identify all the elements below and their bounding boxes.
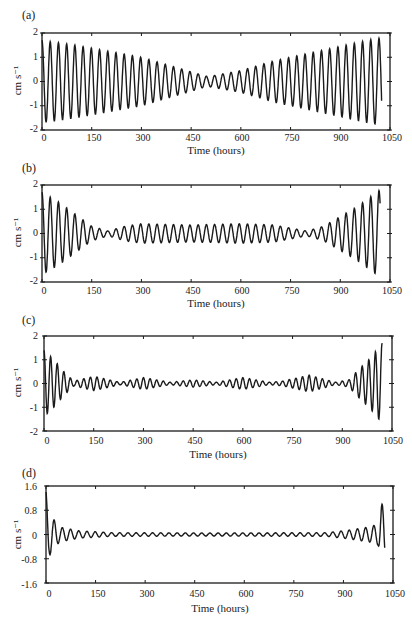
xtick-d-6: 900 [328, 588, 362, 599]
xtick-a-2: 300 [126, 132, 160, 143]
xtick-b-0: 0 [27, 285, 61, 296]
xtick-d-0: 0 [32, 588, 66, 599]
xtick-c-2: 300 [128, 435, 162, 446]
signal-line [44, 343, 382, 419]
ytick-b-0: 2 [8, 178, 38, 189]
xtick-d-3: 450 [180, 588, 214, 599]
ytick-d-0: 1.6 [7, 481, 37, 492]
xtick-c-0: 0 [30, 435, 64, 446]
signal-line [42, 191, 380, 274]
figure: (a) cm s⁻¹ 2 1 0 -1 -2 0 150 300 450 600… [0, 0, 412, 619]
xtick-b-3: 450 [176, 285, 210, 296]
xlabel-b: Time (hours) [156, 297, 276, 309]
plot-panel-2 [40, 185, 392, 282]
xtick-c-1: 150 [79, 435, 113, 446]
plot-panel-3 [42, 336, 394, 431]
xtick-b-5: 750 [275, 285, 309, 296]
ytick-c-1: 1 [8, 354, 38, 365]
ytick-b-2: 0 [8, 227, 38, 238]
xtick-b-4: 600 [225, 285, 259, 296]
panel-label-c: (c) [22, 313, 35, 328]
ytick-b-3: -1 [8, 251, 38, 262]
ytick-b-1: 1 [8, 203, 38, 214]
xtick-d-4: 600 [229, 588, 263, 599]
xtick-d-5: 750 [279, 588, 313, 599]
xtick-a-7: 1050 [375, 132, 409, 143]
ytick-c-2: 0 [8, 378, 38, 389]
ytick-c-3: -1 [8, 402, 38, 413]
xtick-c-5: 750 [277, 435, 311, 446]
xtick-c-7: 1050 [376, 435, 410, 446]
ytick-a-3: -1 [8, 99, 38, 110]
panel-label-b: (b) [22, 161, 36, 176]
signal-line [46, 492, 385, 555]
ytick-d-3: -0.8 [7, 554, 37, 565]
plot-panel-4 [44, 486, 395, 583]
xtick-a-3: 450 [176, 132, 210, 143]
signal-line [42, 38, 382, 124]
ytick-d-2: 0 [7, 530, 37, 541]
ytick-a-0: 2 [8, 26, 38, 37]
ytick-c-0: 2 [8, 330, 38, 341]
xtick-a-1: 150 [77, 132, 111, 143]
xtick-b-1: 150 [77, 285, 111, 296]
xtick-a-5: 750 [275, 132, 309, 143]
xtick-b-7: 1050 [375, 285, 409, 296]
xtick-a-0: 0 [27, 132, 61, 143]
panel-label-a: (a) [22, 8, 35, 23]
xlabel-a: Time (hours) [156, 144, 276, 156]
xtick-d-7: 1050 [378, 588, 412, 599]
xtick-a-6: 900 [324, 132, 358, 143]
xlabel-d: Time (hours) [160, 602, 280, 614]
plot-canvas [0, 0, 412, 619]
xtick-d-1: 150 [81, 588, 115, 599]
xtick-c-6: 900 [326, 435, 360, 446]
xtick-c-3: 450 [178, 435, 212, 446]
xtick-d-2: 300 [130, 588, 164, 599]
xtick-c-4: 600 [227, 435, 261, 446]
panel-label-d: (d) [22, 466, 36, 481]
ytick-a-2: 0 [8, 75, 38, 86]
ytick-d-1: 0.8 [7, 505, 37, 516]
xlabel-c: Time (hours) [158, 448, 278, 460]
plot-panel-1 [40, 33, 392, 130]
ytick-a-1: 1 [8, 51, 38, 62]
xtick-b-6: 900 [324, 285, 358, 296]
xtick-b-2: 300 [126, 285, 160, 296]
xtick-a-4: 600 [225, 132, 259, 143]
